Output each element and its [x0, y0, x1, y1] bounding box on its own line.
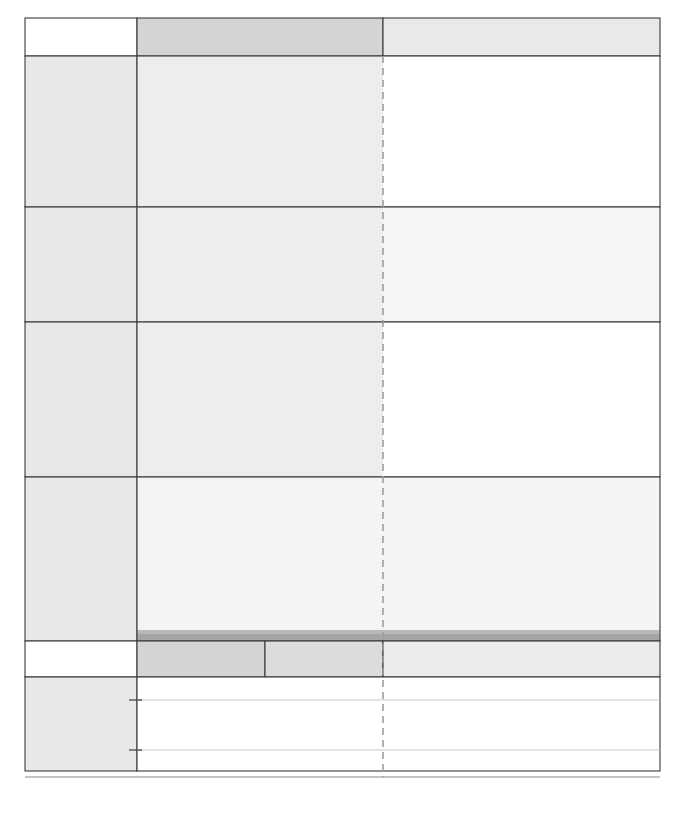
secretory-band — [383, 641, 660, 677]
uterine-cycle-panel — [25, 477, 660, 641]
uterine-phase-header — [25, 641, 660, 677]
proliferative-band — [265, 641, 383, 677]
menses-band — [137, 641, 265, 677]
gonadotrophic-panel — [25, 56, 660, 207]
basal-temperature-panel — [25, 677, 660, 771]
endometrium-illustration — [137, 630, 660, 641]
ovarian-hormone-panel — [25, 322, 660, 477]
ovarian-phase-header — [25, 18, 660, 56]
ovarian-cycle-panel — [25, 207, 660, 322]
menstrual-cycle-figure — [0, 0, 682, 817]
follicular-phase-band — [137, 18, 383, 56]
luteal-phase-band — [383, 18, 660, 56]
